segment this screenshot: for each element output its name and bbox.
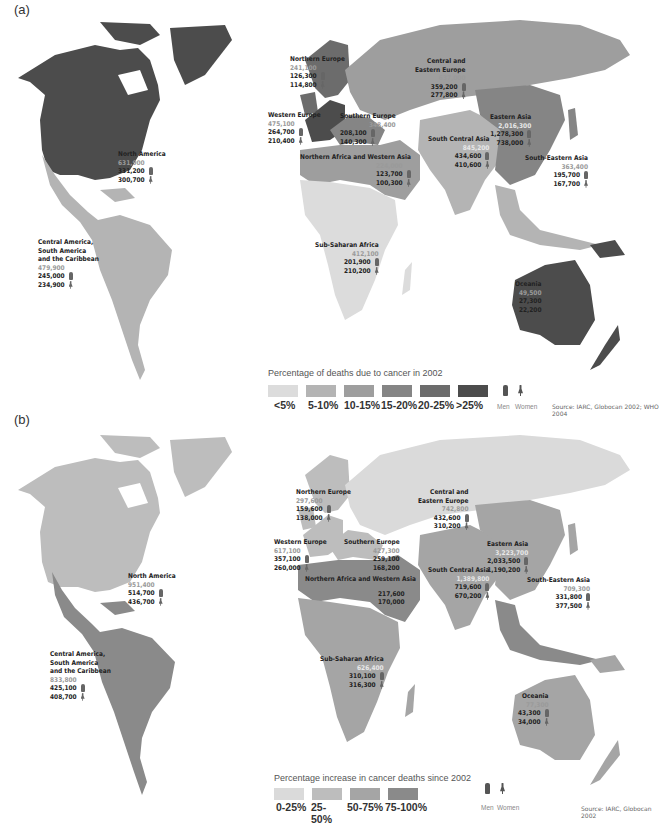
man-icon: [149, 167, 153, 175]
woman-icon: [500, 783, 505, 794]
label-southern-europe: Southern Europe 427,300 259,100 168,200: [344, 538, 400, 572]
man-icon: [371, 129, 375, 137]
label-latin-america: Central America, South America and the C…: [38, 238, 99, 289]
man-icon: [299, 128, 303, 136]
label-south-eastern-asia: South-Eastern Asia 709,300 331,800 377,5…: [527, 576, 590, 610]
label-north-america: North America 631,900 331,200 300,700: [118, 150, 166, 184]
legend-label: 0-25%: [276, 801, 311, 825]
source-note: Source: IARC, Globocan 2002: [581, 805, 663, 819]
man-icon: [524, 557, 528, 565]
legend-label: 75-100%: [385, 801, 429, 825]
label-south-eastern-asia: South-Eastern Asia 363,400 195,700 167,7…: [525, 154, 588, 188]
label-south-central-asia: South Central Asia 845,200 434,600 410,6…: [428, 135, 489, 169]
woman-icon: [380, 681, 384, 689]
legend-swatch-75-100: [388, 788, 418, 800]
legend-labels: 0-25% 25-50% 50-75% 75-100%: [276, 801, 429, 825]
man-icon: [527, 130, 531, 138]
legend-title: Percentage of deaths due to cancer in 20…: [268, 368, 443, 378]
man-icon: [159, 589, 163, 597]
woman-icon: [375, 267, 379, 275]
woman-icon: [149, 176, 153, 184]
legend-swatch-10-15: [344, 385, 374, 397]
label-central-eastern-europe: Central and Eastern Europe 637,000 359,2…: [415, 57, 466, 100]
man-icon: [81, 684, 85, 692]
man-icon: [407, 170, 411, 178]
woman-icon: [584, 180, 588, 188]
woman-icon: [321, 81, 325, 89]
label-central-eastern-europe: Central and Eastern Europe 742,800 432,6…: [418, 488, 469, 531]
men-label: Men: [497, 403, 510, 410]
legend-swatches: [268, 385, 488, 397]
man-icon: [485, 583, 489, 591]
man-icon: [485, 783, 490, 794]
man-icon: [375, 258, 379, 266]
panel-b-increase-since-2002: (b) North America 951,400: [0, 410, 663, 818]
men-women-legend: [503, 385, 523, 396]
panel-a-deaths-2002: (a) North America 631,: [0, 0, 663, 410]
man-icon: [545, 709, 549, 717]
label-northern-europe: Northern Europe 241,100 126,300 114,800: [290, 55, 345, 89]
woman-icon: [462, 91, 466, 99]
legend-label: 50-75%: [347, 801, 385, 825]
women-label: Women: [497, 804, 519, 811]
woman-icon: [485, 592, 489, 600]
man-icon: [586, 593, 590, 601]
woman-icon: [545, 718, 549, 726]
woman-icon: [81, 693, 85, 701]
man-icon: [327, 505, 331, 513]
legend-swatch-25-50: [312, 788, 342, 800]
legend-swatches: [274, 788, 418, 800]
label-south-central-asia: South Central Asia 1,389,800 719,600 670…: [428, 566, 489, 600]
world-map-b: [0, 410, 663, 818]
woman-icon: [524, 566, 528, 574]
woman-icon: [371, 138, 375, 146]
legend-swatch-5-10: [306, 385, 336, 397]
label-n-africa-w-asia: Northern Africa and Western Asia 224,000…: [300, 153, 411, 187]
man-icon: [380, 672, 384, 680]
label-n-africa-w-asia: Northern Africa and Western Asia 217,600…: [305, 575, 416, 607]
woman-icon: [159, 598, 163, 606]
woman-icon: [518, 385, 523, 396]
label-southern-europe: Southern Europe 348,400 208,100 140,300: [340, 112, 396, 146]
woman-icon: [299, 137, 303, 145]
women-label: Women: [515, 403, 537, 410]
label-western-europe: Western Europe 617,100 357,100 260,000: [274, 538, 327, 572]
woman-icon: [485, 161, 489, 169]
man-icon: [462, 83, 466, 91]
legend-swatch-lt5: [268, 385, 298, 397]
label-latin-america: Central America, South America and the C…: [50, 650, 111, 701]
woman-icon: [407, 179, 411, 187]
label-north-america: North America 951,400 514,700 436,700: [128, 572, 176, 606]
label-eastern-asia: Eastern Asia 2,016,300 1,278,300 738,000: [490, 113, 531, 147]
woman-icon: [465, 522, 469, 530]
label-western-europe: Western Europe 475,100 264,700 210,400: [268, 111, 321, 145]
legend-swatch-15-20: [382, 385, 412, 397]
man-icon: [321, 72, 325, 80]
man-icon: [485, 152, 489, 160]
label-oceania: Oceania 49,500 27,300 22,200: [515, 280, 541, 314]
label-oceania: Oceania 77,300 43,300 34,000: [518, 692, 549, 726]
woman-icon: [327, 514, 331, 522]
men-women-legend: [485, 783, 505, 794]
man-icon: [503, 385, 508, 396]
legend-swatch-gt25: [458, 385, 488, 397]
label-sub-saharan-africa: Sub-Saharan Africa 412,100 201,900 210,2…: [315, 241, 379, 275]
woman-icon: [527, 139, 531, 147]
legend-swatch-50-75: [350, 788, 380, 800]
woman-icon: [586, 602, 590, 610]
label-eastern-asia: Eastern Asia 3,223,700 2,033,500 1,190,2…: [487, 540, 528, 574]
men-label: Men: [481, 804, 494, 811]
legend-swatch-20-25: [420, 385, 450, 397]
man-icon: [584, 171, 588, 179]
legend-swatch-0-25: [274, 788, 304, 800]
legend-title: Percentage increase in cancer deaths sin…: [274, 773, 471, 783]
man-icon: [465, 514, 469, 522]
woman-icon: [69, 281, 73, 289]
label-northern-europe: Northern Europe 297,600 159,600 138,000: [296, 488, 351, 522]
woman-icon: [305, 564, 309, 572]
man-icon: [69, 272, 73, 280]
man-icon: [305, 555, 309, 563]
label-sub-saharan-africa: Sub-Saharan Africa 626,400 310,100 316,3…: [320, 655, 384, 689]
legend-label: 25-50%: [311, 801, 347, 825]
region-south-eastern-asia: [495, 185, 600, 250]
